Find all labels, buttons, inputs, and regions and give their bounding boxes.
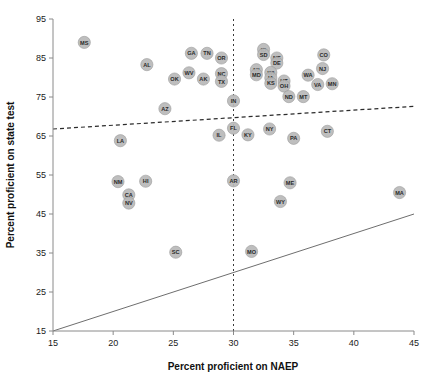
data-point: VA [312,78,324,90]
point-label: OK [170,76,178,82]
point-label: VA [314,82,321,88]
y-tick-label: 25 [36,287,46,297]
x-tick-label: 20 [108,338,118,348]
point-label: WV [184,70,193,76]
data-point: TX [215,75,227,87]
data-point: AK [197,73,209,85]
point-label: MA [395,190,404,196]
data-point: MT [297,91,309,103]
point-label: HI [143,178,149,184]
x-axis-title: Percent proficient on NAEP [168,361,299,372]
data-point: PA [288,132,300,144]
point-label: NY [266,126,274,132]
y-tick-label: 45 [36,209,46,219]
data-point: IN [227,95,239,107]
point-label: IN [231,98,237,104]
data-point: KY [242,129,254,141]
point-label: TN [203,50,210,56]
y-tick-label: 15 [36,326,46,336]
data-point: MO [245,245,257,257]
data-point: NM [112,176,124,188]
point-label: LA [117,138,124,144]
data-point: AZ [159,103,171,115]
point-label: AL [143,62,151,68]
y-tick-label: 55 [36,170,46,180]
data-points: MSALOKWVAKGATNORNCTXAZLANMHICANVSCINFLAR… [78,36,405,258]
point-label: DE [273,60,281,66]
data-point: SD [257,48,269,60]
x-tick-label: 15 [48,338,58,348]
point-label: SC [172,249,180,255]
point-label: MO [247,249,257,255]
point-label: NJ [319,66,326,72]
point-label: IL [217,132,223,138]
data-point: ME [284,177,296,189]
data-point: OR [215,52,227,64]
point-label: NV [125,200,133,206]
data-point: CT [321,125,333,137]
data-point: MA [393,186,405,198]
point-label: KY [244,132,252,138]
point-label: AZ [161,106,169,112]
point-label: WY [276,199,285,205]
data-point: CO [318,49,330,61]
y-axis-ticks: 152535455565758595 [36,14,53,336]
point-label: WA [304,72,313,78]
scatter-chart: 15202530354045 152535455565758595 MSALOK… [0,0,431,380]
data-point: LA [114,135,126,147]
data-point: KS [265,77,277,89]
data-point: NJ [316,62,328,74]
data-point: WY [274,195,286,207]
point-label: GA [187,50,195,56]
data-point: WA [302,69,314,81]
x-axis-ticks: 15202530354045 [48,331,419,348]
point-label: AR [229,178,237,184]
x-tick-label: 30 [228,338,238,348]
y-tick-label: 35 [36,248,46,258]
point-label: MT [299,94,308,100]
y-tick-label: 65 [36,131,46,141]
point-label: MN [328,81,337,87]
data-point: ND [283,91,295,103]
point-label: MS [80,40,89,46]
point-label: FL [230,125,237,131]
point-label: MD [252,72,261,78]
point-label: PA [290,135,297,141]
data-point: AR [227,175,239,187]
data-point: GA [185,47,197,59]
data-point: FL [227,122,239,134]
data-point: OK [168,73,180,85]
data-point: MN [326,78,338,90]
x-tick-label: 35 [289,338,299,348]
point-label: ME [286,180,295,186]
data-point: NV [123,197,135,209]
point-label: TX [218,79,225,85]
point-label: OR [217,55,225,61]
point-label: AK [199,76,207,82]
point-label: SD [260,52,268,58]
data-point: AL [141,59,153,71]
data-point: SC [170,246,182,258]
data-point: TN [201,47,213,59]
data-point: MS [78,36,90,48]
y-axis-title: Percent proficient on state test [5,101,16,248]
y-tick-label: 75 [36,92,46,102]
point-label: ND [285,94,293,100]
plot-area: 15202530354045 152535455565758595 MSALOK… [0,0,431,380]
x-tick-label: 25 [168,338,178,348]
point-label: CO [320,52,329,58]
data-point: HI [140,175,152,187]
point-label: OH [280,83,288,89]
data-point: IL [213,129,225,141]
x-tick-label: 40 [349,338,359,348]
identity-reference-line [53,214,414,331]
y-tick-label: 95 [36,14,46,24]
data-point: NY [264,123,276,135]
y-tick-label: 85 [36,53,46,63]
point-label: KS [267,80,275,86]
x-tick-label: 45 [409,338,419,348]
point-label: CT [324,128,332,134]
data-point: MD [250,69,262,81]
point-label: NM [114,179,123,185]
data-point: WV [183,67,195,79]
